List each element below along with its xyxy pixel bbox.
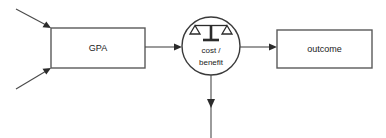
edge-input-arrow-bottom-head <box>43 68 52 75</box>
edge-input-arrow-top <box>16 9 51 28</box>
flow-diagram: GPA cost / benefit <box>0 0 386 138</box>
edge-input-arrow-top-head <box>43 22 52 29</box>
node-cost-benefit-label-line2: benefit <box>199 58 224 67</box>
edge-input-arrow-bottom-line <box>16 71 47 90</box>
edge-cost-benefit-to-outcome-head <box>269 44 277 51</box>
edge-input-arrow-top-line <box>16 9 47 26</box>
node-outcome-label: outcome <box>307 44 342 54</box>
node-cost-benefit[interactable]: cost / benefit <box>182 17 240 75</box>
node-gpa[interactable]: GPA <box>51 28 145 68</box>
edge-cost-benefit-to-outcome <box>240 44 277 51</box>
node-gpa-label: GPA <box>89 43 107 53</box>
edge-cost-benefit-output-down <box>207 75 215 138</box>
node-outcome[interactable]: outcome <box>277 30 372 68</box>
node-cost-benefit-label-line1: cost / <box>201 46 221 55</box>
diagram-canvas: GPA cost / benefit <box>0 0 386 138</box>
edge-cost-benefit-output-down-head <box>207 99 215 108</box>
edge-gpa-to-cost-benefit <box>145 44 182 51</box>
edge-input-arrow-bottom <box>16 68 51 89</box>
edge-gpa-to-cost-benefit-head <box>174 44 182 51</box>
